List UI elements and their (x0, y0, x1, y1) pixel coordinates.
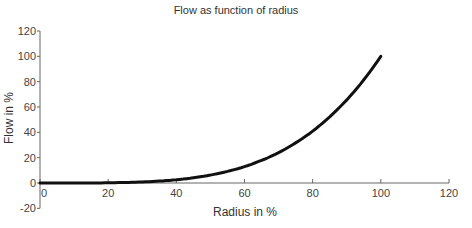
y-tick-label: 120 (18, 25, 36, 37)
y-tick-label: 20 (24, 152, 36, 164)
y-tick-label: 60 (24, 101, 36, 113)
y-tick-label: 0 (30, 177, 36, 189)
x-tick-label: 0 (41, 187, 47, 199)
flow-curve (40, 56, 381, 183)
y-tick-label: 100 (18, 50, 36, 62)
y-tick-label: 40 (24, 126, 36, 138)
y-tick-label: -20 (20, 202, 36, 214)
axes: -20020406080100120020406080100120 (18, 25, 459, 214)
y-axis-label: Flow in % (2, 92, 16, 144)
x-tick-label: 120 (440, 187, 458, 199)
flow-radius-chart: Flow as function of radius -200204060801… (0, 0, 472, 228)
x-tick-label: 80 (307, 187, 319, 199)
x-tick-label: 100 (372, 187, 390, 199)
x-tick-label: 40 (170, 187, 182, 199)
y-tick-label: 80 (24, 76, 36, 88)
chart-title: Flow as function of radius (174, 4, 299, 16)
x-tick-label: 20 (102, 187, 114, 199)
x-axis-label: Radius in % (213, 205, 277, 219)
x-tick-label: 60 (238, 187, 250, 199)
